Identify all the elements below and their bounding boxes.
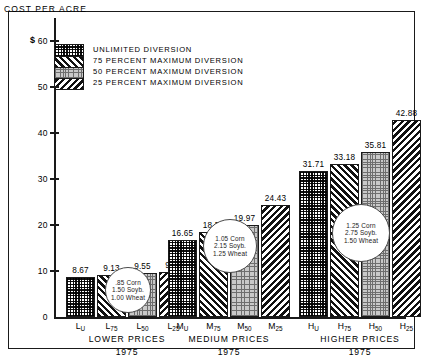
y-axis-tick [50,270,59,271]
y-axis-unit: $ [30,35,35,45]
x-axis-tick-label: L50 [137,321,149,331]
bar [168,240,197,317]
legend-swatch-unlimited [55,45,83,56]
y-axis-tick-label: 10 [8,266,48,276]
bar [392,120,421,317]
y-axis-tick [50,40,59,41]
y-axis-tick-label: 40 [8,128,48,138]
y-axis-labels: 0102030405060 [0,0,48,338]
x-axis-tick-label: M75 [206,321,220,331]
x-axis-group-year: 1975 [349,347,372,357]
bar [66,277,95,317]
callout-line: 1.05 Corn [215,235,244,243]
x-axis-group-caption: LOWER PRICES [89,334,166,344]
x-axis-line [54,317,406,319]
callout-line: 2.15 Soyb. [214,242,246,250]
legend-label-50: 50 PERCENT MAXIMUM DIVERSION [93,66,243,77]
y-axis-tick [50,224,59,225]
callout-line: 1.00 Wheat [111,294,145,302]
x-axis-tick-label: L75 [106,321,118,331]
x-axis-tick-label: M25 [268,321,282,331]
price-assumption-callout: .85 Corn1.50 Soyb.1.00 Wheat [105,267,151,313]
legend-swatch-50 [55,67,83,78]
callout-line: 1.25 Wheat [213,250,247,258]
y-axis-tick-label: 20 [8,220,48,230]
legend-label-unlimited: UNLIMITED DIVERSION [93,44,243,55]
x-axis-tick-label: H25 [400,321,413,331]
y-axis-tick [50,132,59,133]
y-axis-tick-label: 60 [8,36,48,46]
x-axis-group-year: 1975 [218,347,241,357]
bar [299,171,328,317]
legend-swatch-75 [55,56,83,67]
y-axis-tick-label: 50 [8,82,48,92]
y-axis-tick [50,86,59,87]
callout-line: 1.50 Soyb. [112,286,144,294]
y-axis-tick [50,178,59,179]
legend: UNLIMITED DIVERSION 75 PERCENT MAXIMUM D… [54,44,243,90]
y-axis-tick-label: 0 [8,312,48,322]
callout-line: 1.50 Wheat [344,237,378,245]
price-assumption-callout: 1.25 Corn2.75 Soyb.1.50 Wheat [332,204,390,262]
x-axis-tick-label: H50 [369,321,382,331]
bar [261,205,290,317]
price-assumption-callout: 1.05 Corn2.15 Soyb.1.25 Wheat [203,219,257,273]
x-axis-tick-label: M50 [237,321,251,331]
legend-swatch-25 [55,78,83,89]
legend-label-75: 75 PERCENT MAXIMUM DIVERSION [93,55,243,66]
x-axis-tick-label: H75 [338,321,351,331]
callout-line: .85 Corn [115,279,141,287]
x-axis-tick-label: MU [177,321,189,331]
legend-labels: UNLIMITED DIVERSION 75 PERCENT MAXIMUM D… [93,44,243,90]
x-axis-group-caption: HIGHER PRICES [320,334,400,344]
x-axis-group-year: 1975 [116,347,139,357]
callout-line: 2.75 Soyb. [345,229,377,237]
y-axis-tick-label: 30 [8,174,48,184]
legend-swatches [54,44,84,90]
x-axis-tick-label: LU [76,321,85,331]
legend-label-25: 25 PERCENT MAXIMUM DIVERSION [93,77,243,88]
callout-line: 1.25 Corn [346,222,375,230]
x-axis-group-caption: MEDIUM PRICES [189,334,270,344]
x-axis-tick-label: HU [308,321,319,331]
